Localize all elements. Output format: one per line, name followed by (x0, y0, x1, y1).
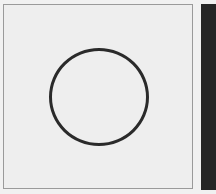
dark-side-bar (201, 4, 216, 190)
circle-shape (49, 48, 149, 146)
